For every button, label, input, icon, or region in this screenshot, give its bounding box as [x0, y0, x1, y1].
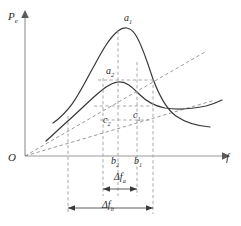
dimension-inner-group	[103, 186, 137, 192]
span-outer-label: Δfb	[102, 200, 114, 212]
tall-resonance-curve	[53, 28, 210, 127]
reference-rays-group	[25, 52, 215, 156]
span-outer-label-sub: b	[111, 205, 114, 212]
freq-left-label: b2	[111, 156, 119, 168]
span-inner-label: Δfa	[114, 172, 126, 184]
y-axis-label-sub: e	[15, 17, 18, 24]
peak-tall-label-sub: 1	[129, 18, 132, 25]
peak-short-label-sub: 2	[111, 71, 114, 78]
cross-right-label: c1	[133, 110, 141, 122]
cross-left-label-sub: 2	[107, 120, 110, 127]
span-outer-label-text: Δf	[102, 199, 111, 210]
axis-group	[21, 10, 230, 160]
span-inner-label-sub: a	[123, 177, 126, 184]
origin-label: O	[8, 152, 16, 163]
dimension-inner-arrow-left	[103, 186, 110, 192]
dimension-inner-arrow-right	[130, 186, 137, 192]
dimension-outer-arrow-left	[68, 205, 75, 211]
dimension-outer-arrow-right	[146, 205, 153, 211]
resonance-diagram-figure: Pe f O a1 a2 c1 c2 b1 b2 Δfa Δfb	[0, 0, 241, 226]
freq-right-label-sub: 1	[139, 161, 142, 168]
upper-reference-ray	[25, 52, 205, 156]
peak-short-label: a2	[106, 66, 114, 78]
y-axis-label: Pe	[8, 11, 18, 25]
y-axis-arrowhead	[21, 10, 29, 18]
figure-canvas	[0, 0, 241, 226]
cross-right-label-sub: 1	[137, 115, 140, 122]
freq-right-label: b1	[134, 156, 142, 168]
freq-left-label-sub: 2	[116, 161, 119, 168]
x-axis-label: f	[226, 152, 229, 163]
span-inner-label-text: Δf	[114, 171, 123, 182]
cross-left-label: c2	[103, 115, 111, 127]
curves-group	[46, 28, 222, 141]
peak-tall-label: a1	[124, 13, 132, 25]
y-axis-label-text: P	[8, 10, 15, 22]
